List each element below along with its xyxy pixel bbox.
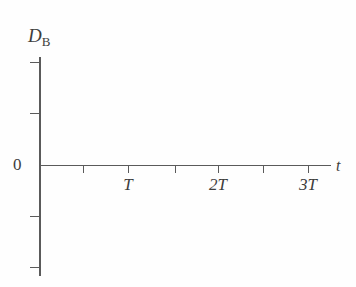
x-axis-tick: [83, 165, 84, 173]
x-axis-tick: [263, 165, 264, 173]
x-axis-tick-label-3T: 3T: [299, 176, 317, 193]
y-axis-label: DB: [28, 26, 50, 48]
origin-label: 0: [13, 156, 22, 173]
y-axis-tick: [30, 267, 39, 268]
x-axis-tick: [218, 165, 219, 173]
y-axis-tick: [30, 216, 39, 217]
x-axis-label: t: [336, 158, 340, 174]
y-axis-line: [39, 57, 41, 276]
x-axis-tick-label-T: T: [123, 176, 132, 193]
y-axis-label-symbol: D: [28, 25, 42, 46]
y-axis-label-subscript: B: [42, 34, 51, 49]
y-axis-tick: [30, 62, 39, 63]
y-axis-tick: [30, 113, 39, 114]
x-axis-tick: [308, 165, 309, 173]
x-axis-tick: [128, 165, 129, 173]
x-axis-tick-label-2T: 2T: [209, 176, 227, 193]
graph-figure: DB 0 T 2T 3T t: [0, 0, 356, 287]
x-axis-tick: [175, 165, 176, 173]
